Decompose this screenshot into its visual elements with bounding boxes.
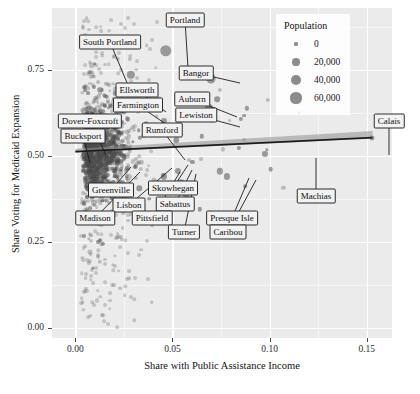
legend-bubble-key <box>284 92 308 103</box>
callout-label-farmington: Farmington <box>113 98 163 113</box>
y-tick-mark <box>48 242 52 243</box>
callout-label-auburn: Auburn <box>174 92 210 107</box>
x-tick-label-3: 0.15 <box>342 344 392 354</box>
y-tick-mark <box>48 156 52 157</box>
callout-label-greenville: Greenville <box>88 183 134 198</box>
x-tick-mark <box>75 338 76 342</box>
population-bubble-icon <box>292 58 300 66</box>
regression-line <box>75 138 372 152</box>
legend-label: 20,000 <box>314 57 340 67</box>
x-tick-label-2: 0.10 <box>245 344 295 354</box>
callout-label-portland: Portland <box>166 13 205 28</box>
legend-entry: 40,000 <box>284 71 340 89</box>
legend-bubble-key <box>284 42 308 45</box>
callout-label-calais: Calais <box>374 114 405 129</box>
callout-label-turner: Turner <box>168 225 200 240</box>
legend-label: 60,000 <box>314 93 340 103</box>
callout-label-madison: Madison <box>75 211 115 226</box>
x-tick-mark <box>367 338 368 342</box>
callout-label-south-portland: South Portland <box>79 35 141 50</box>
callout-label-ellsworth: Ellsworth <box>116 83 159 98</box>
population-bubble-icon <box>294 42 297 45</box>
legend-entry: 0 <box>284 35 340 53</box>
y-tick-mark <box>48 70 52 71</box>
legend-entries: 020,00040,00060,000 <box>284 35 340 107</box>
y-tick-label-0: 0.00 <box>10 322 44 332</box>
legend-label: 0 <box>314 39 319 49</box>
size-legend: Population 020,00040,00060,000 <box>276 14 350 115</box>
legend-entry: 60,000 <box>284 89 340 107</box>
population-bubble-icon <box>290 92 301 103</box>
x-axis-title: Share with Public Assistance Income <box>142 360 302 371</box>
legend-bubble-key <box>284 58 308 66</box>
x-tick-mark <box>270 338 271 342</box>
callout-label-rumford: Rumford <box>142 123 183 138</box>
x-tick-mark <box>172 338 173 342</box>
callout-label-sabattus: Sabattus <box>156 197 195 212</box>
legend-entry: 20,000 <box>284 53 340 71</box>
scatter-plot-figure: 0.000.250.500.750.000.050.100.15 Share V… <box>0 0 420 394</box>
callout-label-presque-isle: Presque Isle <box>206 211 258 226</box>
callout-label-bangor: Bangor <box>179 66 214 81</box>
callout-label-dover-foxcroft: Dover-Foxcroft <box>58 114 122 129</box>
callout-label-machias: Machias <box>297 189 336 204</box>
callout-label-bucksport: Bucksport <box>61 129 106 144</box>
callout-label-lewiston: Lewiston <box>175 108 217 123</box>
y-tick-label-3: 0.75 <box>10 64 44 74</box>
x-tick-label-1: 0.05 <box>147 344 197 354</box>
x-tick-label-0: 0.00 <box>50 344 100 354</box>
callout-label-caribou: Caribou <box>210 225 247 240</box>
legend-title: Population <box>284 20 340 31</box>
callout-label-skowhegan: Skowhegan <box>148 181 198 196</box>
population-bubble-icon <box>291 75 301 85</box>
legend-bubble-key <box>284 75 308 85</box>
y-tick-mark <box>48 328 52 329</box>
y-axis-title: Share Voting for Medicaid Expansion <box>10 95 21 253</box>
callout-label-pittsfield: Pittsfield <box>132 211 173 226</box>
legend-label: 40,000 <box>314 75 340 85</box>
